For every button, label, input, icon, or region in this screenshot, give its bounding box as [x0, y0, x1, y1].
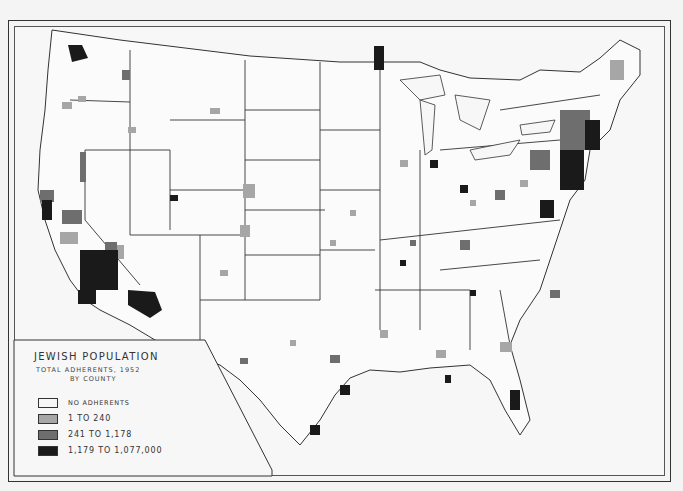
legend-item-mid: 241 TO 1,178 — [38, 429, 132, 440]
legend-title: JEWISH POPULATION — [34, 351, 159, 362]
swatch-low — [38, 414, 58, 424]
legend-label: NO ADHERENTS — [68, 399, 130, 407]
swatch-none — [38, 398, 58, 408]
legend-subtitle: TOTAL ADHERENTS, 1952 — [36, 366, 140, 374]
legend-label: 1,179 TO 1,077,000 — [68, 446, 162, 455]
legend-label: 1 TO 240 — [68, 414, 111, 423]
legend: JEWISH POPULATION TOTAL ADHERENTS, 1952 … — [14, 340, 272, 476]
legend-subtitle-county: BY COUNTY — [70, 375, 116, 383]
swatch-high — [38, 446, 58, 456]
legend-item-none: NO ADHERENTS — [38, 397, 130, 408]
legend-label: 241 TO 1,178 — [68, 430, 132, 439]
legend-item-low: 1 TO 240 — [38, 413, 111, 424]
legend-item-high: 1,179 TO 1,077,000 — [38, 445, 162, 456]
swatch-mid — [38, 430, 58, 440]
